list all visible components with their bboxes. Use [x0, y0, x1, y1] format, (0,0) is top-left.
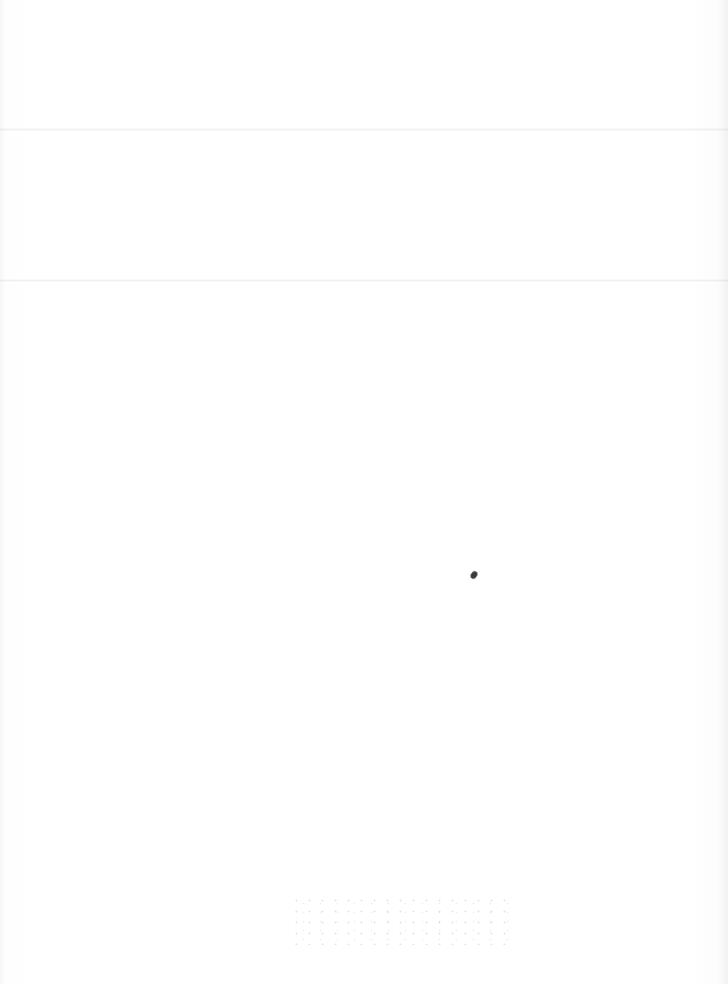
- bleed-through-noise: [290, 895, 510, 945]
- fold-line-top: [0, 128, 728, 131]
- blank-page: [0, 0, 728, 984]
- fold-line-middle: [0, 279, 728, 282]
- ink-speck: [469, 570, 479, 580]
